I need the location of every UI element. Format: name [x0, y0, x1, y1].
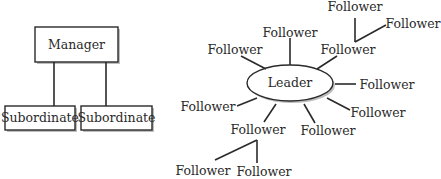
follower-label: Follower	[385, 16, 440, 31]
spoke-line	[304, 104, 315, 123]
spoke-line	[264, 104, 276, 122]
branch-line	[215, 140, 257, 160]
follower-label: Follower	[175, 163, 230, 178]
subordinate-label: Subordinate	[1, 110, 79, 125]
leader-label: Leader	[268, 75, 313, 90]
follower-label: Follower	[350, 105, 405, 120]
spoke-line	[327, 98, 350, 110]
follower-label: Follower	[327, 0, 382, 14]
spoke-line	[317, 56, 337, 69]
follower-label: Follower	[207, 42, 262, 57]
follower-label: Follower	[236, 164, 291, 179]
leader-network-diagram: Leader Follower Follower Follower Follow…	[175, 0, 440, 179]
manager-label: Manager	[48, 37, 105, 52]
follower-label: Follower	[262, 25, 317, 40]
follower-label: Follower	[180, 99, 235, 114]
subordinate-label: Subordinate	[77, 110, 155, 125]
follower-label: Follower	[320, 42, 375, 57]
follower-label: Follower	[359, 77, 414, 92]
spoke-line	[241, 56, 266, 69]
diagram-canvas: Manager Subordinate Subordinate Leader F…	[0, 0, 441, 179]
spoke-line	[237, 98, 257, 106]
follower-label: Follower	[230, 122, 285, 137]
branch-line	[355, 25, 386, 42]
follower-label: Follower	[300, 123, 355, 138]
hierarchy-diagram: Manager Subordinate Subordinate	[1, 27, 156, 132]
